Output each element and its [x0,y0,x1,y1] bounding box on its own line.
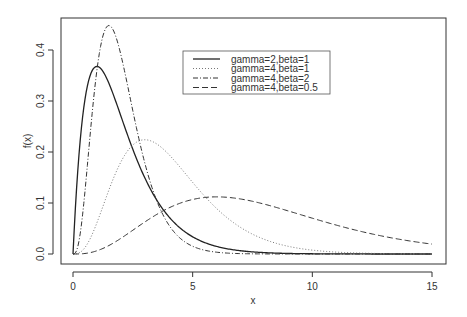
y-tick-label: 0.0 [35,247,46,261]
curve-dashed [73,197,432,254]
x-tick-label: 15 [426,281,438,292]
x-axis-label: x [251,295,256,306]
curve-dotted [73,140,432,254]
x-tick-label: 10 [307,281,319,292]
curve-solid [73,66,432,254]
y-axis-label: f(x) [22,134,33,148]
y-tick-label: 0.3 [35,94,46,108]
gamma-density-chart: 0510150.00.10.20.30.4 x f(x) gamma=2,bet… [0,0,467,317]
y-tick-label: 0.2 [35,145,46,159]
y-tick-label: 0.4 [35,43,46,57]
legend: gamma=2,beta=1gamma=4,beta=1gamma=4,beta… [183,51,330,94]
x-tick-label: 5 [190,281,196,292]
legend-label: gamma=4,beta=0.5 [231,82,318,93]
x-tick-label: 0 [70,281,76,292]
y-tick-label: 0.1 [35,196,46,210]
